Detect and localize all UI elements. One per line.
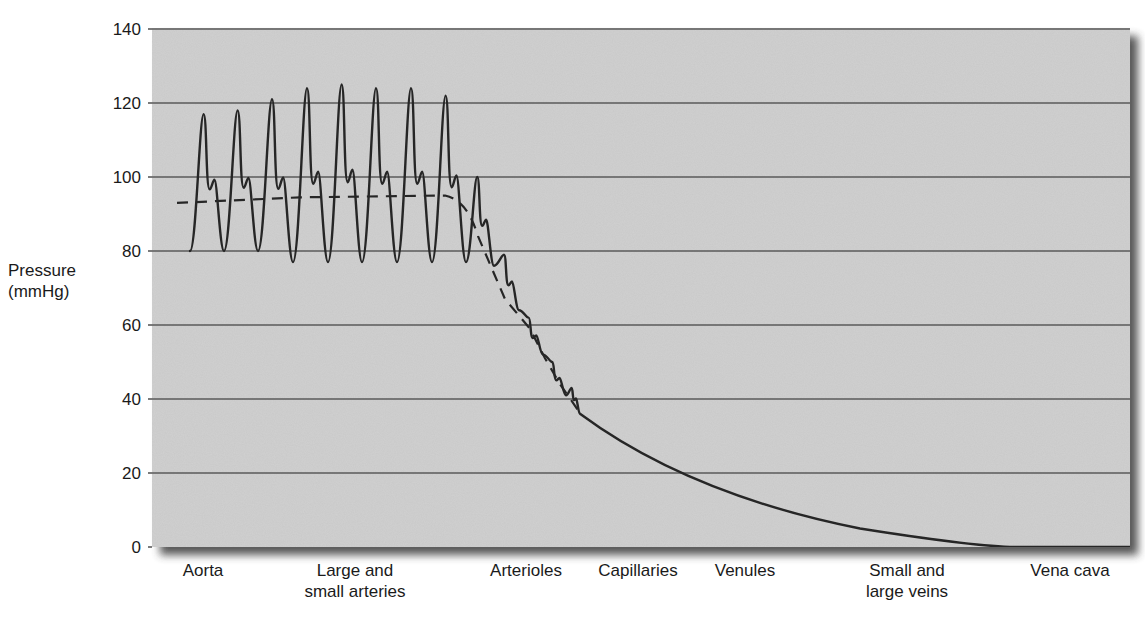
y-tick-label: 120 xyxy=(113,94,141,113)
x-category-label: Small andlarge veins xyxy=(866,561,948,601)
y-axis-label: Pressure (mmHg) xyxy=(8,261,81,301)
y-tick-label: 20 xyxy=(122,464,141,483)
y-axis-ticks: 020406080100120140 xyxy=(113,20,152,557)
plot-texture xyxy=(152,28,1130,547)
y-tick-label: 60 xyxy=(122,316,141,335)
y-tick-label: 100 xyxy=(113,168,141,187)
y-tick-label: 0 xyxy=(132,538,141,557)
x-category-label: Vena cava xyxy=(1030,561,1110,580)
y-tick-label: 140 xyxy=(113,20,141,39)
x-category-label: Aorta xyxy=(183,561,224,580)
y-tick-label: 40 xyxy=(122,390,141,409)
x-category-label: Large andsmall arteries xyxy=(304,561,405,601)
x-category-label: Arterioles xyxy=(490,561,562,580)
pressure-chart: 020406080100120140 Pressure (mmHg) Aorta… xyxy=(0,0,1145,621)
x-category-label: Venules xyxy=(715,561,776,580)
y-tick-label: 80 xyxy=(122,242,141,261)
x-category-label: Capillaries xyxy=(598,561,677,580)
x-axis-categories: AortaLarge andsmall arteriesArteriolesCa… xyxy=(183,561,1111,601)
